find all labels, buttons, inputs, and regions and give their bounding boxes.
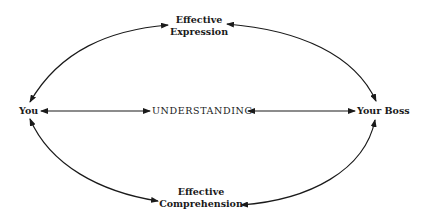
node-your-boss: Your Boss xyxy=(357,105,410,117)
node-effective-comprehension: Effective Comprehension xyxy=(155,186,247,210)
node-you: You xyxy=(19,105,38,117)
arrow-you-expression xyxy=(30,25,168,102)
node-bottom-line2: Comprehension xyxy=(155,198,247,210)
node-bottom-line1: Effective xyxy=(155,186,247,198)
arrow-you-comprehension xyxy=(30,119,158,201)
arrow-expression-boss xyxy=(227,24,376,101)
node-top-line1: Effective xyxy=(160,14,238,26)
arrow-comprehension-boss xyxy=(241,120,375,205)
node-effective-expression: Effective Expression xyxy=(160,14,238,38)
node-top-line2: Expression xyxy=(160,26,238,38)
node-understanding: UNDERSTANDING xyxy=(152,105,253,117)
